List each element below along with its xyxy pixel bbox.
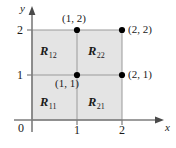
region-label-R12: R12 xyxy=(40,45,56,58)
region-subscript-R22: 22 xyxy=(97,51,105,60)
point-dot-2-2 xyxy=(119,27,125,33)
figure-container: y x 0 1 2 1 2 (1, 2) (2, 2) (1, 1) (2, 1… xyxy=(0,0,176,148)
y-axis-label: y xyxy=(20,3,25,14)
origin-label: 0 xyxy=(18,122,24,134)
point-dot-2-1 xyxy=(119,72,125,78)
region-label-R21: R21 xyxy=(88,96,104,109)
y-axis-arrowhead xyxy=(29,6,36,15)
point-label-2-1: (2, 1) xyxy=(128,69,152,80)
x-axis-label: x xyxy=(165,122,170,133)
region-subscript-R11: 11 xyxy=(49,102,57,111)
y-tick-label-2: 2 xyxy=(17,24,23,36)
x-tick-label-1: 1 xyxy=(74,124,80,136)
region-label-R11: R11 xyxy=(40,96,56,109)
point-label-1-2: (1, 2) xyxy=(62,13,86,24)
point-label-2-2: (2, 2) xyxy=(128,24,152,35)
x-axis-arrowhead xyxy=(155,117,164,124)
point-label-1-1: (1, 1) xyxy=(55,78,79,89)
y-tick-label-1: 1 xyxy=(17,69,23,81)
region-subscript-R12: 12 xyxy=(49,51,57,60)
region-base-R21: R xyxy=(88,95,96,109)
region-base-R12: R xyxy=(40,44,48,58)
point-dot-1-2 xyxy=(74,27,80,33)
x-tick-label-2: 2 xyxy=(119,124,125,136)
region-subscript-R21: 21 xyxy=(97,102,105,111)
region-label-R22: R22 xyxy=(88,45,104,58)
region-base-R11: R xyxy=(40,95,48,109)
region-base-R22: R xyxy=(88,44,96,58)
